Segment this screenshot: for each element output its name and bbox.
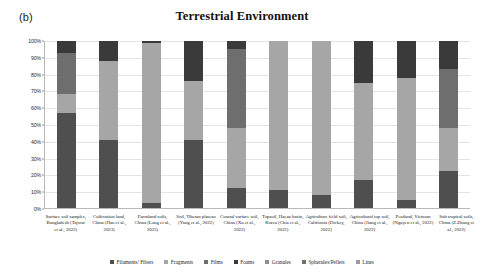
stacked-bar[interactable] — [142, 41, 161, 208]
legend-item[interactable]: Filaments/ Fibers — [110, 259, 153, 265]
bar-segment[interactable] — [354, 41, 373, 83]
bar-segment[interactable] — [439, 128, 458, 171]
chart-plot-wrapper: 100%90%80%70%60%50%40%30%20%10%0% — [18, 38, 470, 212]
legend-item[interactable]: Spherules/Pellets — [302, 259, 345, 265]
x-axis-label: Agriculture field soil, California (Dick… — [304, 214, 347, 233]
bar-segment[interactable] — [99, 140, 118, 208]
bar-slot — [428, 41, 471, 208]
bar-segment[interactable] — [397, 200, 416, 208]
legend-label: Granules — [272, 259, 291, 265]
x-axis-label: Coastal surface soil, China (Xu et al., … — [218, 214, 261, 233]
legend-swatch-icon — [302, 260, 306, 264]
stacked-bar[interactable] — [397, 41, 416, 208]
stacked-bar[interactable] — [312, 41, 331, 208]
y-axis-tick-label: 20% — [31, 172, 41, 178]
bar-segment[interactable] — [312, 195, 331, 208]
plot-area — [44, 41, 470, 209]
bar-segment[interactable] — [439, 69, 458, 127]
bar-segment[interactable] — [397, 78, 416, 200]
bar-slot — [385, 41, 428, 208]
stacked-bar[interactable] — [439, 41, 458, 208]
bar-slot — [300, 41, 343, 208]
bar-segment[interactable] — [57, 41, 76, 53]
x-axis-label: Cultivation land, China (Hao et al., 202… — [87, 214, 130, 233]
x-axis-label: Soil, Tibetan plateau (Yang et al., 2022… — [174, 214, 217, 227]
legend-label: Lines — [362, 259, 374, 265]
legend-item[interactable]: Films — [204, 259, 223, 265]
y-axis-tick-label: 0% — [34, 206, 41, 212]
x-axis-label: Agricultural top soil, China (Jiang et a… — [348, 214, 391, 233]
legend-label: Films — [211, 259, 223, 265]
stacked-bar[interactable] — [99, 41, 118, 208]
legend-swatch-icon — [164, 260, 168, 264]
bar-segment[interactable] — [227, 128, 246, 188]
legend-label: Fragments — [171, 259, 193, 265]
bar-segment[interactable] — [184, 81, 203, 139]
bar-slot — [130, 41, 173, 208]
y-axis-tick-label: 90% — [31, 55, 41, 61]
x-axis-label: Topsoil, Haean basin, Korea (Chia et al.… — [261, 214, 304, 233]
bar-group — [45, 41, 470, 208]
legend-swatch-icon — [204, 260, 208, 264]
bar-segment[interactable] — [57, 53, 76, 95]
chart-title: Terrestrial Environment — [0, 9, 484, 24]
bar-segment[interactable] — [269, 41, 288, 190]
bar-segment[interactable] — [99, 61, 118, 139]
y-axis-tick-label: 50% — [31, 122, 41, 128]
legend-label: Filaments/ Fibers — [117, 259, 154, 265]
legend-item[interactable]: Lines — [356, 259, 374, 265]
bar-segment[interactable] — [142, 43, 161, 203]
bar-segment[interactable] — [57, 94, 76, 112]
bar-segment[interactable] — [269, 190, 288, 208]
y-axis-tick-label: 60% — [31, 105, 41, 111]
legend-swatch-icon — [110, 260, 114, 264]
x-axis-labels: Surface soil samples, Bangladesh (Tajwar… — [44, 214, 478, 258]
y-axis-tick-label: 10% — [31, 189, 41, 195]
bar-segment[interactable] — [184, 41, 203, 81]
chart-legend: Filaments/ FibersFragmentsFilmsFoamsGran… — [0, 259, 484, 265]
x-axis-label: Sub tropical soils, China (Z.Zhang et al… — [435, 214, 478, 233]
legend-item[interactable]: Fragments — [164, 259, 193, 265]
x-axis-label: Surface soil samples, Bangladesh (Tajwar… — [44, 214, 87, 233]
bar-segment[interactable] — [184, 140, 203, 208]
bar-slot — [88, 41, 131, 208]
stacked-bar[interactable] — [269, 41, 288, 208]
bar-segment[interactable] — [354, 83, 373, 180]
stacked-bar[interactable] — [184, 41, 203, 208]
y-axis-tick-label: 100% — [28, 38, 41, 44]
y-axis-tick-label: 70% — [31, 88, 41, 94]
y-axis: 100%90%80%70%60%50%40%30%20%10%0% — [18, 38, 44, 212]
bar-segment[interactable] — [312, 41, 331, 195]
legend-item[interactable]: Foams — [234, 259, 255, 265]
bar-slot — [173, 41, 216, 208]
y-axis-tick-label: 30% — [31, 156, 41, 162]
bar-segment[interactable] — [227, 49, 246, 127]
bar-segment[interactable] — [99, 41, 118, 61]
bar-segment[interactable] — [439, 41, 458, 69]
bar-segment[interactable] — [227, 41, 246, 49]
y-axis-tick-label: 80% — [31, 72, 41, 78]
bar-slot — [45, 41, 88, 208]
legend-swatch-icon — [356, 260, 360, 264]
legend-swatch-icon — [234, 260, 238, 264]
stacked-bar[interactable] — [354, 41, 373, 208]
legend-swatch-icon — [265, 260, 269, 264]
bar-segment[interactable] — [57, 113, 76, 208]
bar-slot — [258, 41, 301, 208]
legend-label: Foams — [240, 259, 254, 265]
bar-segment[interactable] — [142, 203, 161, 208]
x-axis-label: Peatland, Vietnam (Nguyen et al., 2022) — [391, 214, 434, 227]
legend-item[interactable]: Granules — [265, 259, 291, 265]
bar-segment[interactable] — [227, 188, 246, 208]
x-axis-label: Farmland soils, China (Long et al., 2023… — [131, 214, 174, 233]
bar-slot — [215, 41, 258, 208]
bar-segment[interactable] — [439, 171, 458, 208]
bar-segment[interactable] — [397, 41, 416, 78]
stacked-bar[interactable] — [227, 41, 246, 208]
legend-label: Spherules/Pellets — [308, 259, 344, 265]
bar-segment[interactable] — [354, 180, 373, 208]
bar-slot — [343, 41, 386, 208]
y-axis-tick-label: 40% — [31, 139, 41, 145]
stacked-bar[interactable] — [57, 41, 76, 208]
